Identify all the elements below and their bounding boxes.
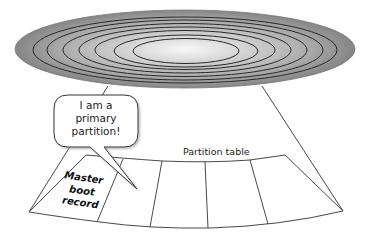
bubble-line-2: primary xyxy=(58,112,134,125)
speech-bubble-text: I am a primary partition! xyxy=(58,99,134,138)
diagram-canvas: I am a primary partition! Partition tabl… xyxy=(0,0,370,240)
bubble-line-1: I am a xyxy=(58,99,134,112)
disk-platter xyxy=(15,10,355,88)
bubble-line-3: partition! xyxy=(58,125,134,138)
partition-table-label: Partition table xyxy=(183,146,250,157)
